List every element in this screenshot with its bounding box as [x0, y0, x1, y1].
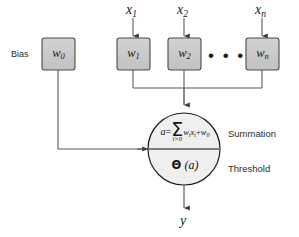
weight-bus: [133, 70, 262, 105]
output-label-y: y: [180, 213, 186, 229]
threshold-expression: Θ (a): [152, 158, 218, 173]
perceptron-diagram: x1 x2 xn Bias w0 w1 w2 wn • • • a=Σi>0wi…: [0, 0, 299, 237]
input-label-x1: x1: [126, 2, 137, 19]
bias-caption: Bias: [11, 49, 29, 59]
diagram-canvas: [0, 0, 299, 237]
input-label-xn: xn: [255, 2, 266, 19]
summation-side-label: Summation: [228, 128, 276, 139]
weight-label-wn: wn: [246, 46, 279, 61]
weight-label-w0: w0: [42, 46, 75, 61]
input-label-x2: x2: [177, 2, 188, 19]
summation-equation: a=Σi>0wixi+w0: [152, 121, 218, 143]
theta-icon: Θ: [172, 158, 182, 172]
bias-connector: [58, 70, 148, 149]
ellipsis-dots: • • •: [208, 47, 245, 64]
sigma-icon: Σi>0: [171, 121, 183, 143]
threshold-side-label: Threshold: [228, 163, 270, 174]
weight-label-w2: w2: [168, 46, 201, 61]
weight-label-w1: w1: [117, 46, 150, 61]
